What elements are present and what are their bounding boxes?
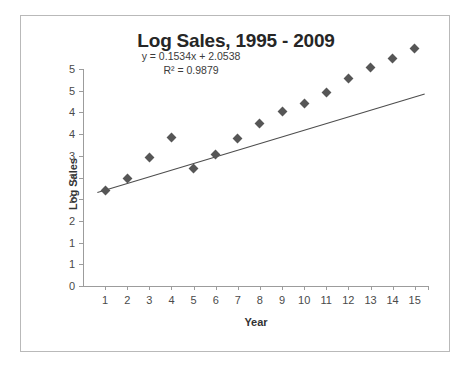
trendline <box>83 69 429 287</box>
x-tick-label: 8 <box>257 294 263 306</box>
x-tick-label: 9 <box>279 294 285 306</box>
y-tick-label: 3 <box>69 150 75 162</box>
y-tick-label: 2 <box>69 193 75 205</box>
y-tick-label: 4 <box>69 128 75 140</box>
x-tick-label: 3 <box>146 294 152 306</box>
x-tick-label: 6 <box>213 294 219 306</box>
x-tick-label: 14 <box>386 294 398 306</box>
x-axis-title: Year <box>83 316 429 328</box>
trendline-equation: y = 0.1534x + 2.0538 <box>116 49 266 63</box>
x-tick-label: 12 <box>342 294 354 306</box>
x-tick-label: 10 <box>298 294 310 306</box>
x-tick-label: 15 <box>409 294 421 306</box>
y-tick-label: 4 <box>69 106 75 118</box>
y-tick-label: 5 <box>69 85 75 97</box>
data-point-marker <box>388 54 398 64</box>
x-tick-label: 5 <box>191 294 197 306</box>
x-tick-label: 4 <box>168 294 174 306</box>
x-tick-label: 2 <box>124 294 130 306</box>
plot-area: 01122334455 123456789101112131415 <box>83 69 428 286</box>
y-tick-label: 3 <box>69 172 75 184</box>
x-tick-label: 11 <box>321 294 332 306</box>
x-tick-label: 13 <box>364 294 376 306</box>
x-tick-label: 7 <box>235 294 241 306</box>
data-point-marker <box>410 44 420 54</box>
y-tick-label: 0 <box>69 280 75 292</box>
y-tick-label: 5 <box>69 63 75 75</box>
chart-container: Log Sales, 1995 - 2009 Log Sales Year y … <box>20 15 450 352</box>
y-tick-label: 2 <box>69 215 75 227</box>
plot-wrapper: Log Sales Year y = 0.1534x + 2.0538 R² =… <box>21 16 451 353</box>
y-tick-label: 1 <box>69 237 75 249</box>
x-tick-label: 1 <box>102 294 108 306</box>
y-tick-label: 1 <box>69 258 75 270</box>
